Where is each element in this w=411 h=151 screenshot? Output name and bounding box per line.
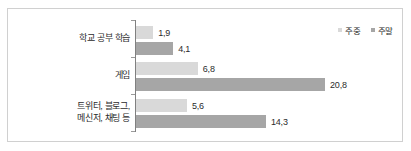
category-label-2-line-0: 트위터, 블로그, [28, 100, 130, 112]
category-label-0: 학교 공부 학습 [28, 32, 130, 44]
bar-value-weekend-2: 14,3 [271, 117, 288, 127]
bar-value-weekday-1: 6,8 [203, 64, 215, 74]
bar-weekday-0[interactable] [136, 26, 153, 39]
bar-weekday-1[interactable] [136, 62, 198, 75]
axis-tick [131, 131, 135, 132]
legend-label-weekend: 주말 [378, 24, 393, 36]
bar-value-weekend-1: 20,8 [330, 80, 347, 90]
legend-swatch-weekday-icon [338, 28, 342, 32]
category-label-2: 트위터, 블로그, 메신저, 채팅 등 [28, 100, 130, 124]
category-label-1: 게임 [28, 69, 130, 81]
axis-tick [131, 57, 135, 58]
bar-value-weekday-2: 5,6 [192, 101, 204, 111]
chart-container: 학교 공부 학습 게임 트위터, 블로그, 메신저, 채팅 등 1,9 4,1 … [0, 0, 411, 151]
chart-legend: 주중 주말 [338, 24, 393, 36]
category-label-0-line-0: 학교 공부 학습 [28, 32, 130, 44]
legend-label-weekday: 주중 [345, 24, 360, 36]
legend-item-weekday[interactable]: 주중 [338, 24, 360, 36]
bar-value-weekday-0: 1,9 [158, 28, 170, 38]
bar-weekday-2[interactable] [136, 99, 187, 112]
bar-value-weekend-0: 4,1 [178, 44, 190, 54]
category-label-2-line-1: 메신저, 채팅 등 [28, 112, 130, 124]
axis-tick [131, 94, 135, 95]
bar-weekend-0[interactable] [136, 42, 173, 55]
bar-weekend-2[interactable] [136, 115, 266, 128]
axis-tick [131, 20, 135, 21]
category-label-1-line-0: 게임 [28, 69, 130, 81]
bar-weekend-1[interactable] [136, 78, 325, 91]
legend-swatch-weekend-icon [371, 28, 375, 32]
legend-item-weekend[interactable]: 주말 [371, 24, 393, 36]
